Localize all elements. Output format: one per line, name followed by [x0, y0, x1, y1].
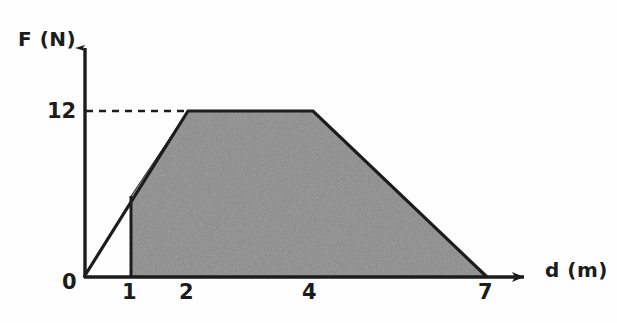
- x-tick-label-2: 2: [179, 280, 194, 304]
- shaded-area-region: [131, 111, 487, 277]
- force-distance-graph: F (N) d (m) 12 0 1 2 4 7: [0, 0, 617, 323]
- x-tick-label-4: 4: [302, 280, 317, 304]
- x-tick-label-7: 7: [478, 280, 493, 304]
- graph-canvas: [0, 0, 617, 323]
- y-axis-label: F (N): [18, 27, 76, 51]
- origin-label: 0: [62, 270, 77, 294]
- x-axis-label: d (m): [545, 258, 608, 282]
- x-tick-label-1: 1: [122, 280, 137, 304]
- y-tick-label-12: 12: [47, 99, 76, 123]
